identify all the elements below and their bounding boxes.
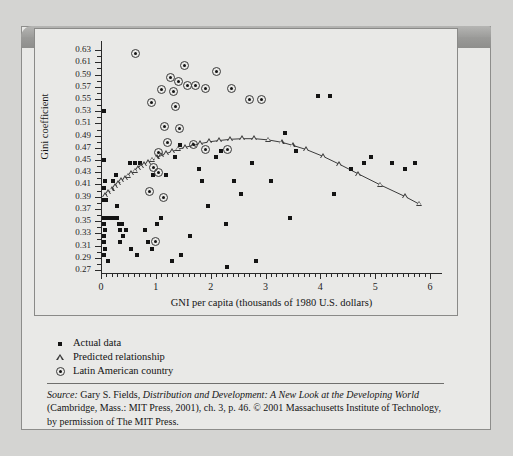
- y-tick-label: 0.41: [61, 178, 91, 188]
- predicted-point: [169, 148, 175, 153]
- actual-data-point: [403, 167, 407, 171]
- x-tick-minor: [403, 274, 404, 277]
- x-tick-minor: [255, 274, 256, 277]
- actual-data-point: [103, 179, 107, 183]
- latin-american-point: [147, 98, 156, 107]
- actual-data-point: [115, 204, 119, 208]
- x-tick-minor: [128, 274, 129, 277]
- actual-data-point: [200, 179, 204, 183]
- predicted-point: [290, 142, 296, 147]
- x-tick-minor: [233, 274, 234, 277]
- legend-item-latin-american-country: Latin American country: [56, 364, 173, 378]
- predicted-point: [197, 140, 203, 145]
- x-tick-minor: [205, 274, 206, 277]
- source-note: Source: Gary S. Fields, Distribution and…: [47, 388, 451, 428]
- legend-item-predicted-relationship: Predicted relationship: [56, 350, 173, 364]
- actual-data-point: [128, 161, 132, 165]
- legend-item-actual-data: Actual data: [56, 336, 173, 350]
- x-tick-minor: [315, 274, 316, 277]
- actual-data-point: [103, 228, 107, 232]
- y-tick-label: 0.59: [61, 69, 91, 79]
- x-tick-minor: [172, 274, 173, 277]
- actual-data-point: [146, 240, 150, 244]
- latin-american-point: [131, 49, 140, 58]
- x-tick-minor: [414, 274, 415, 277]
- predicted-point: [227, 136, 233, 141]
- latin-american-point: [223, 145, 232, 154]
- latin-american-point: [212, 67, 221, 76]
- latin-american-point: [257, 95, 266, 104]
- x-tick: [375, 274, 376, 279]
- actual-data-point: [120, 222, 124, 226]
- actual-data-point: [332, 192, 336, 196]
- actual-data-point: [219, 149, 223, 153]
- actual-data-point: [390, 161, 394, 165]
- predicted-point: [336, 161, 342, 166]
- actual-data-point: [115, 216, 119, 220]
- actual-data-point: [102, 109, 106, 113]
- x-tick-minor: [392, 274, 393, 277]
- x-tick-minor: [216, 274, 217, 277]
- actual-data-point: [104, 198, 108, 202]
- actual-data-point: [118, 240, 122, 244]
- actual-data-point: [214, 155, 218, 159]
- chart-legend: Actual data Predicted relationship Latin…: [56, 336, 173, 378]
- actual-data-point: [362, 161, 366, 165]
- y-tick-label: 0.49: [61, 130, 91, 140]
- latin-american-point: [227, 84, 236, 93]
- latin-american-point: [169, 87, 178, 96]
- actual-data-point: [197, 167, 201, 171]
- x-tick-minor: [293, 274, 294, 277]
- actual-data-point: [124, 228, 128, 232]
- x-tick-label: 2: [201, 281, 221, 292]
- x-tick-minor: [106, 274, 107, 277]
- actual-data-point: [121, 234, 125, 238]
- x-tick-minor: [359, 274, 360, 277]
- x-tick-minor: [348, 274, 349, 277]
- x-tick: [266, 274, 267, 279]
- predicted-point: [416, 201, 422, 206]
- x-tick-minor: [260, 274, 261, 277]
- actual-data-point: [150, 247, 154, 251]
- predicted-point: [216, 137, 222, 142]
- x-tick-label: 5: [365, 281, 385, 292]
- actual-data-point: [102, 253, 106, 257]
- x-tick-minor: [419, 274, 420, 277]
- latin-american-point: [171, 102, 180, 111]
- actual-data-point: [288, 216, 292, 220]
- predicted-point: [182, 144, 188, 149]
- x-tick-minor: [150, 274, 151, 277]
- y-tick-label: 0.39: [61, 191, 91, 201]
- actual-data-point: [269, 179, 273, 183]
- actual-data-point: [103, 247, 107, 251]
- x-tick-minor: [364, 274, 365, 277]
- x-tick-minor: [194, 274, 195, 277]
- y-tick-label: 0.31: [61, 240, 91, 250]
- source-work-title: Distribution and Development: A New Look…: [143, 389, 419, 400]
- x-tick-minor: [200, 274, 201, 277]
- actual-data-point: [250, 161, 254, 165]
- x-tick-minor: [222, 274, 223, 277]
- y-tick-label: 0.57: [61, 81, 91, 91]
- actual-data-point: [118, 228, 122, 232]
- actual-data-point: [135, 253, 139, 257]
- x-tick: [211, 274, 212, 279]
- x-axis-title: GNI per capita (thousands of 1980 U.S. d…: [101, 297, 442, 308]
- x-tick-label: 0: [91, 281, 111, 292]
- x-tick: [156, 274, 157, 279]
- circled-dot-marker-icon: [56, 367, 65, 376]
- predicted-point: [402, 193, 408, 198]
- actual-data-point: [225, 265, 229, 269]
- x-tick-minor: [276, 274, 277, 277]
- y-tick-label: 0.61: [61, 56, 91, 66]
- x-tick-minor: [145, 274, 146, 277]
- actual-data-point: [206, 204, 210, 208]
- actual-data-point: [369, 155, 373, 159]
- y-tick-label: 0.45: [61, 154, 91, 164]
- plot-area: [101, 41, 441, 273]
- x-tick-minor: [337, 274, 338, 277]
- actual-data-point: [173, 155, 177, 159]
- x-tick-minor: [381, 274, 382, 277]
- x-tick-minor: [425, 274, 426, 277]
- actual-data-point: [102, 158, 106, 162]
